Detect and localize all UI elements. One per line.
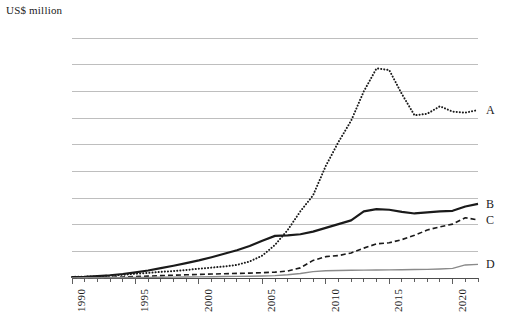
series-label-b: B	[486, 198, 494, 210]
chart-figure: US$ million 0500,0001,000,0001,500,0002,…	[0, 0, 509, 322]
series-label-a: A	[486, 104, 495, 116]
series-label-d: D	[486, 258, 495, 270]
series-label-c: C	[486, 214, 494, 226]
series-end-labels: ABCD	[0, 0, 509, 322]
